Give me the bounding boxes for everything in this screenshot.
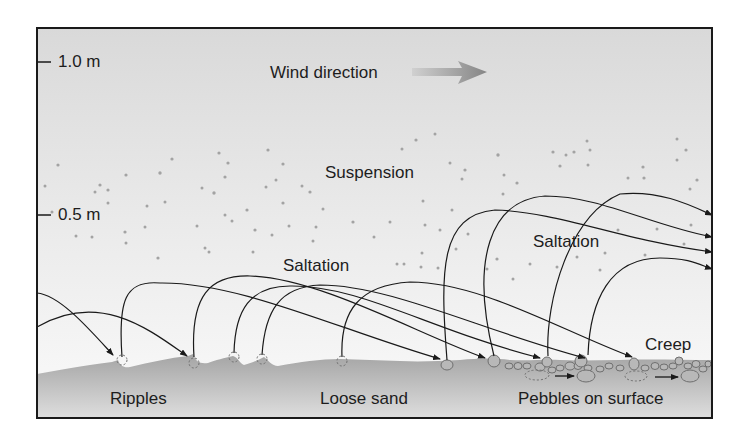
saltation-label-right: Saltation [533, 233, 599, 250]
suspension-label: Suspension [325, 164, 414, 181]
sky-background [37, 28, 712, 418]
loose-sand-label: Loose sand [320, 390, 408, 407]
saltation-label-left: Saltation [283, 257, 349, 274]
wind-direction-label: Wind direction [270, 64, 378, 81]
scale-label-half-m: 0.5 m [58, 206, 101, 223]
pebbles-on-surface-label: Pebbles on surface [518, 390, 664, 407]
ripples-label: Ripples [110, 390, 167, 407]
scale-label-1m: 1.0 m [58, 53, 101, 70]
creep-label: Creep [645, 336, 691, 353]
wind-sediment-transport-diagram: 1.0 m 0.5 m Wind direction Suspension Sa… [0, 0, 737, 445]
